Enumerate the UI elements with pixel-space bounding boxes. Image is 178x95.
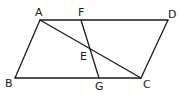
segment-fg bbox=[81, 20, 99, 78]
segment-dc bbox=[141, 20, 168, 78]
label-d: D bbox=[168, 8, 176, 21]
label-c: C bbox=[143, 78, 151, 91]
label-f: F bbox=[78, 6, 84, 19]
segment-ba bbox=[15, 20, 40, 78]
segments bbox=[15, 20, 168, 78]
parallelogram-diagram: A F D B G C E bbox=[0, 0, 178, 95]
label-e: E bbox=[80, 50, 87, 63]
label-b: B bbox=[5, 77, 13, 90]
label-g: G bbox=[95, 80, 104, 93]
label-a: A bbox=[35, 6, 43, 19]
